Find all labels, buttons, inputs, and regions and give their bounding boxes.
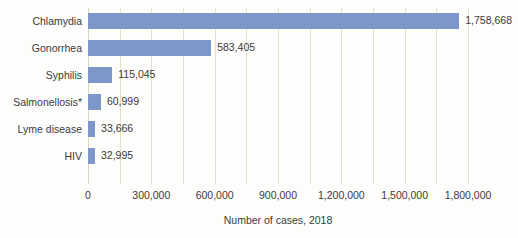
bar [88, 121, 95, 137]
bar-row: 583,405 [88, 35, 468, 62]
x-tick-label: 900,000 [259, 188, 297, 202]
gridline [468, 8, 469, 184]
category-label: Salmonellosis* [0, 89, 82, 116]
x-tick-label: 1,500,000 [381, 188, 428, 202]
x-tick-label: 1,200,000 [318, 188, 365, 202]
bar [88, 148, 95, 164]
x-tick-label: 0 [85, 188, 91, 202]
bar-value-label: 583,405 [217, 39, 255, 56]
bar-row: 115,045 [88, 62, 468, 89]
bar-row: 1,758,668 [88, 8, 468, 35]
category-label: Chlamydia [0, 8, 82, 35]
bar-value-label: 32,995 [101, 147, 133, 164]
bar-value-label: 115,045 [118, 66, 155, 83]
x-tick-label: 600,000 [196, 188, 234, 202]
category-label: Gonorrhea [0, 35, 82, 62]
bar-series: 1,758,668583,405115,04560,99933,66632,99… [88, 8, 468, 184]
bar [88, 40, 211, 56]
bar [88, 67, 112, 83]
category-axis-labels: Chlamydia Gonorrhea Syphilis Salmonellos… [0, 8, 82, 184]
bar [88, 94, 101, 110]
category-label: Syphilis [0, 62, 82, 89]
x-axis-tick-labels: 0300,000600,000900,0001,200,0001,500,000… [88, 188, 468, 204]
category-label: Lyme disease [0, 116, 82, 143]
bar-value-label: 60,999 [107, 93, 139, 110]
bar-row: 32,995 [88, 143, 468, 170]
bar-value-label: 1,758,668 [465, 12, 512, 29]
x-axis-title: Number of cases, 2018 [88, 214, 468, 226]
plot-area: 1,758,668583,405115,04560,99933,66632,99… [88, 8, 468, 184]
bar-row: 33,666 [88, 116, 468, 143]
bar-row: 60,999 [88, 89, 468, 116]
bar-chart: Chlamydia Gonorrhea Syphilis Salmonellos… [0, 0, 518, 238]
bar-value-label: 33,666 [101, 120, 133, 137]
bar [88, 13, 459, 29]
category-label: HIV [0, 143, 82, 170]
x-tick-label: 1,800,000 [445, 188, 492, 202]
x-tick-label: 300,000 [132, 188, 170, 202]
